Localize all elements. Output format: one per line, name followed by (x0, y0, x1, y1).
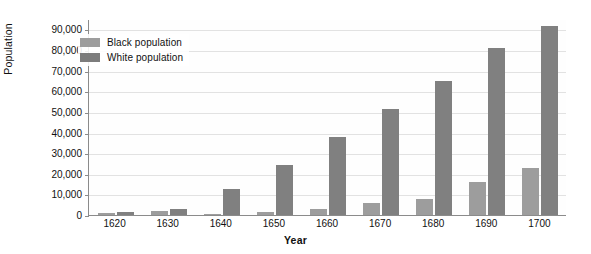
bar-white-population (223, 189, 240, 215)
y-axis-tick-mark (85, 216, 89, 217)
x-axis-title: Year (0, 234, 591, 246)
bar-white-population (117, 212, 134, 215)
bar-white-population (541, 26, 558, 215)
legend-label-white-population: White population (107, 52, 183, 63)
bar-white-population (276, 165, 293, 216)
y-axis-tick-label: 50,000 (26, 107, 82, 118)
bar-black-population (363, 203, 380, 215)
y-axis-tick-mark (85, 92, 89, 93)
x-axis-tick-label: 1700 (514, 218, 564, 229)
y-axis-tick-label: 0 (26, 210, 82, 221)
legend-swatch-icon-white-population (80, 53, 100, 62)
bar-black-population (257, 212, 274, 215)
y-axis-tick-mark (85, 175, 89, 176)
x-axis-tick-labels: 162016301640165016601670168016901700 (88, 218, 566, 234)
chart-figure: Population 010,00020,00030,00040,00050,0… (0, 0, 591, 254)
legend-swatch-icon-black-population (80, 38, 100, 47)
bar-black-population (469, 182, 486, 215)
bar-white-population (488, 48, 505, 215)
y-axis-tick-mark (85, 113, 89, 114)
x-axis-tick-label: 1690 (461, 218, 511, 229)
bar-black-population (98, 213, 115, 215)
chart-legend: Black population White population (78, 34, 189, 66)
y-axis-tick-label: 30,000 (26, 148, 82, 159)
x-axis-tick-label: 1620 (90, 218, 140, 229)
y-axis-tick-mark (85, 195, 89, 196)
y-axis-tick-labels: 010,00020,00030,00040,00050,00060,00070,… (26, 0, 84, 254)
y-axis-tick-label: 60,000 (26, 86, 82, 97)
legend-item-white-population: White population (80, 51, 183, 64)
y-axis-tick-label: 70,000 (26, 66, 82, 77)
bar-black-population (151, 211, 168, 215)
gridline (89, 30, 566, 31)
y-axis-tick-label: 20,000 (26, 169, 82, 180)
bar-white-population (382, 109, 399, 215)
x-axis-tick-label: 1640 (196, 218, 246, 229)
y-axis-tick-mark (85, 30, 89, 31)
bar-black-population (310, 209, 327, 215)
bar-white-population (329, 137, 346, 215)
bar-white-population (435, 81, 452, 215)
y-axis-tick-mark (85, 154, 89, 155)
y-axis-tick-label: 80,000 (26, 45, 82, 56)
y-axis-tick-label: 90,000 (26, 24, 82, 35)
y-axis-tick-mark (85, 72, 89, 73)
legend-item-black-population: Black population (80, 36, 183, 49)
x-axis-tick-label: 1660 (302, 218, 352, 229)
y-axis-tick-label: 40,000 (26, 128, 82, 139)
bar-black-population (204, 214, 221, 216)
legend-label-black-population: Black population (107, 37, 182, 48)
y-axis-tick-label: 10,000 (26, 189, 82, 200)
bar-white-population (170, 209, 187, 215)
bar-black-population (522, 168, 539, 216)
y-axis-tick-mark (85, 134, 89, 135)
bar-black-population (416, 199, 433, 215)
x-axis-tick-label: 1630 (143, 218, 193, 229)
x-axis-tick-label: 1670 (355, 218, 405, 229)
x-axis-tick-label: 1650 (249, 218, 299, 229)
y-axis-title: Population (2, 4, 20, 94)
x-axis-tick-label: 1680 (408, 218, 458, 229)
